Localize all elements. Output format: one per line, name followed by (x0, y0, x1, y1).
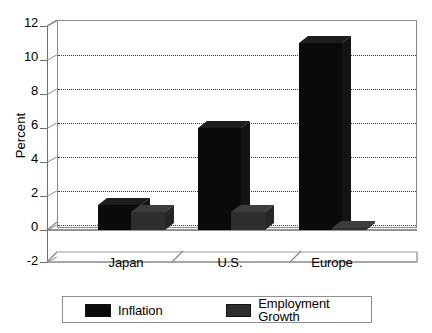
legend-item-inflation: Inflation (85, 302, 163, 318)
legend-label-inflation: Inflation (118, 304, 163, 317)
legend-swatch-employment-growth (226, 304, 251, 317)
x-tick-label-japan: Japan (86, 255, 166, 270)
legend-item-employment-growth: Employment Growth (226, 302, 371, 318)
x-tick-label-us: U.S. (190, 255, 270, 270)
bar-europe-inflation (299, 36, 351, 230)
x-tick-label-europe: Europe (292, 255, 372, 270)
legend-swatch-inflation (85, 304, 111, 317)
bar-us-employment-growth (231, 205, 274, 230)
bar-japan-employment-growth (131, 205, 174, 230)
chart-legend: Inflation Employment Growth (62, 296, 372, 323)
legend-label-employment-growth: Employment Growth (258, 297, 371, 323)
bar-chart: 12 10 8 6 4 2 0 -2 Percent (0, 0, 432, 333)
bars-layer (0, 0, 432, 333)
